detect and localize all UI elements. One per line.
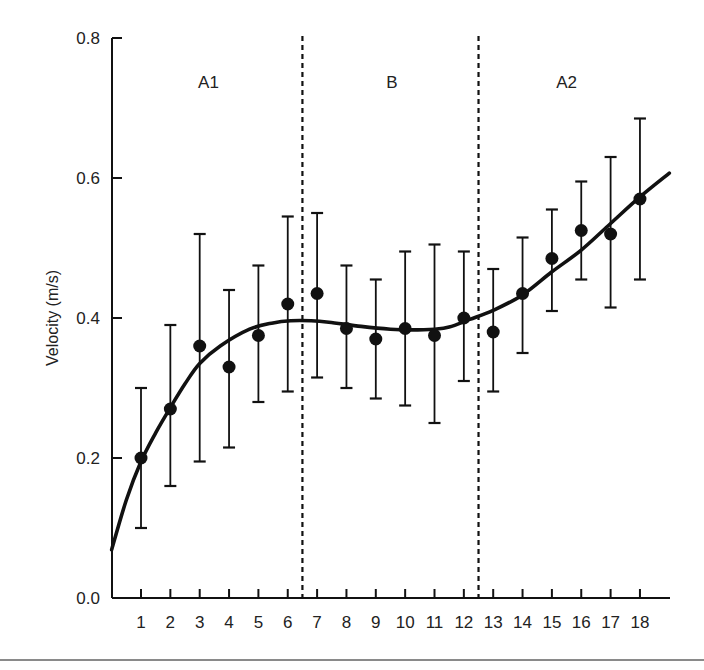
y-axis-title: Velocity (m/s) <box>44 270 61 366</box>
region-dividers <box>302 36 478 598</box>
data-point-marker <box>487 326 500 339</box>
data-point-marker <box>633 193 646 206</box>
x-tick-label: 5 <box>254 613 263 632</box>
x-tick-label: 18 <box>630 613 649 632</box>
data-point-marker <box>252 329 265 342</box>
y-tick-label: 0.4 <box>76 309 100 328</box>
x-tick-label: 4 <box>224 613 233 632</box>
y-tick-label: 0.8 <box>76 29 100 48</box>
x-tick-label: 2 <box>166 613 175 632</box>
data-point-marker <box>340 322 353 335</box>
x-tick-label: 15 <box>542 613 561 632</box>
data-point-marker <box>135 452 148 465</box>
bottom-divider-line <box>0 659 704 661</box>
data-point-marker <box>428 329 441 342</box>
y-tick-label: 0.0 <box>76 589 100 608</box>
data-point-marker <box>516 287 529 300</box>
x-tick-label: 16 <box>572 613 591 632</box>
x-tick-label: 1 <box>136 613 145 632</box>
x-tick-label: 11 <box>426 613 444 632</box>
data-point-marker <box>399 322 412 335</box>
region-label-a1: A1 <box>198 73 219 92</box>
x-tick-label: 9 <box>371 613 380 632</box>
y-axis-ticks: 0.00.20.40.60.8 <box>76 29 122 608</box>
data-point-marker <box>223 361 236 374</box>
x-tick-label: 17 <box>601 613 620 632</box>
data-point-marker <box>369 333 382 346</box>
data-point-marker <box>281 298 294 311</box>
x-tick-label: 6 <box>283 613 292 632</box>
x-tick-label: 10 <box>396 613 415 632</box>
x-tick-label: 13 <box>484 613 503 632</box>
x-tick-label: 8 <box>342 613 351 632</box>
error-bars <box>135 119 646 529</box>
data-point-marker <box>604 228 617 241</box>
data-point-marker <box>193 340 206 353</box>
x-tick-label: 12 <box>454 613 473 632</box>
x-tick-label: 14 <box>513 613 532 632</box>
velocity-chart: Velocity (m/s) 0.00.20.40.60.8 123456789… <box>0 0 704 670</box>
y-tick-label: 0.6 <box>76 169 100 188</box>
axes <box>112 38 670 598</box>
x-tick-label: 3 <box>195 613 204 632</box>
data-point-marker <box>545 252 558 265</box>
data-point-marker <box>311 287 324 300</box>
data-point-marker <box>575 224 588 237</box>
region-label-a2: A2 <box>556 73 577 92</box>
data-point-marker <box>457 312 470 325</box>
region-labels: A1BA2 <box>198 73 577 92</box>
y-tick-label: 0.2 <box>76 449 100 468</box>
x-axis-ticks: 123456789101112131415161718 <box>136 589 649 632</box>
region-label-b: B <box>386 73 397 92</box>
y-axis-label: Velocity (m/s) <box>44 270 61 366</box>
x-tick-label: 7 <box>312 613 321 632</box>
data-point-marker <box>164 403 177 416</box>
